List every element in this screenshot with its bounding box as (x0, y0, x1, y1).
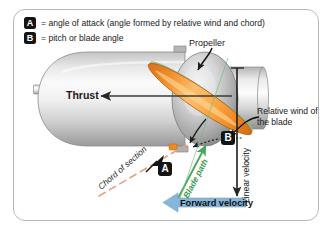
label-propeller: Propeller (189, 38, 225, 48)
label-relative-wind: Relative wind of the blade (257, 106, 319, 127)
legend-label-b: = pitch or blade angle (41, 33, 123, 43)
marker-badge-a: A (158, 162, 172, 176)
legend-item-angle-of-attack: A = angle of attack (angle formed by rel… (24, 17, 265, 29)
label-thrust: Thrust (66, 89, 99, 101)
legend-label-a: = angle of attack (angle formed by relat… (41, 18, 265, 28)
nacelle-top-step (174, 46, 186, 52)
figure-root: A = angle of attack (angle formed by rel… (0, 0, 332, 235)
legend-badge-a: A (24, 17, 36, 29)
chord-arrow-stem (146, 161, 157, 172)
legend-badge-b: B (24, 32, 36, 44)
label-linear-velocity: Linear velocity (241, 148, 251, 203)
marker-badge-b: B (221, 131, 235, 145)
legend-item-pitch-angle: B = pitch or blade angle (24, 32, 123, 44)
blade-root-tab (169, 144, 177, 150)
nacelle-body (34, 46, 189, 152)
